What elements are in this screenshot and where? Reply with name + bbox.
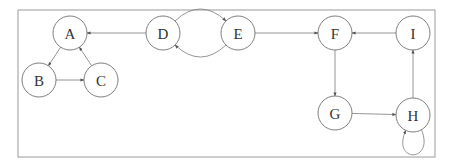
node-label: C: [96, 73, 106, 89]
node-label: I: [411, 26, 416, 42]
directed-graph-diagram: ABCDEFGHI: [0, 0, 453, 167]
node-label: F: [331, 26, 339, 42]
node-label: G: [330, 106, 341, 122]
node-e: E: [221, 16, 255, 50]
node-label: A: [65, 26, 76, 42]
edge-e-to-d: [175, 45, 226, 57]
node-d: D: [146, 16, 180, 50]
node-label: E: [233, 26, 242, 42]
node-h: H: [396, 98, 430, 132]
edge-g-to-h: [352, 113, 396, 114]
node-g: G: [318, 96, 352, 130]
node-c: C: [84, 63, 118, 97]
node-f: F: [318, 16, 352, 50]
edge-c-to-a: [79, 47, 91, 66]
node-i: I: [396, 16, 430, 50]
node-label: D: [158, 26, 169, 42]
node-a: A: [53, 16, 87, 50]
node-label: H: [408, 108, 419, 124]
node-label: B: [34, 73, 44, 89]
edge-h-to-h: [403, 130, 424, 155]
node-b: B: [22, 63, 56, 97]
edge-a-to-b: [48, 47, 60, 66]
edge-d-to-e: [175, 9, 226, 21]
